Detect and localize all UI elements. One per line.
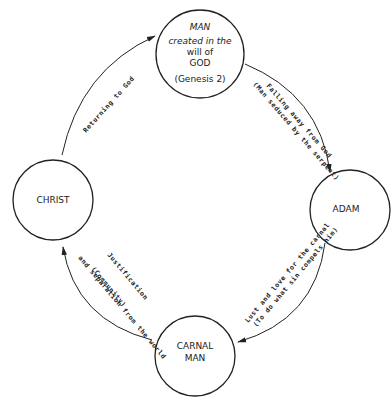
edge-man-to-adam-label1: Falling away from God xyxy=(264,82,333,160)
node-adam-label: ADAM xyxy=(333,204,360,214)
edge-adam-to-carnal-label1: Lust and love for the carnal xyxy=(243,221,331,324)
node-man-line5: (Genesis 2) xyxy=(174,74,225,84)
edge-adam-to-carnal-label2: (To do what sin compels him) xyxy=(252,225,340,328)
node-man-title: MAN xyxy=(190,22,211,32)
node-christ-label: CHRIST xyxy=(36,195,70,205)
edge-christ-to-man-label: Returning to God xyxy=(82,75,137,135)
cycle-diagram: MAN created in the will of GOD (Genesis … xyxy=(0,0,391,402)
edge-man-to-adam-label2: (Man seduced by the serpent) xyxy=(251,80,341,182)
node-carnal-man-line2: MAN xyxy=(185,353,206,363)
node-carnal-man-line1: CARNAL xyxy=(177,341,214,351)
edge-christ-to-man-arrow xyxy=(62,36,155,155)
node-man-line4: GOD xyxy=(190,58,211,68)
node-man-line3: will of xyxy=(187,47,214,57)
node-man-line2: created in the xyxy=(168,36,232,46)
